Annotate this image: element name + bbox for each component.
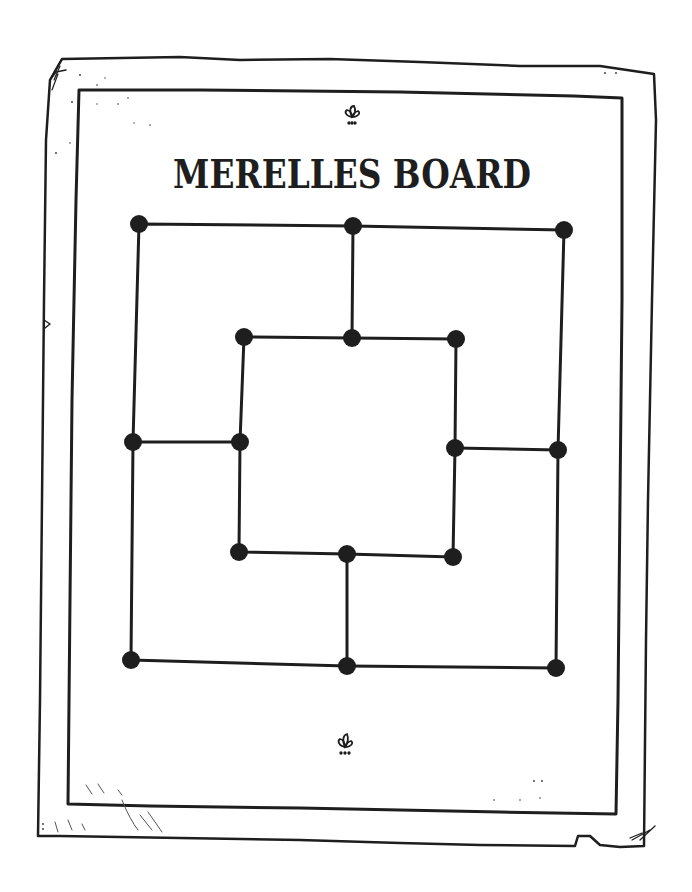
board-node[interactable]	[555, 221, 573, 239]
fleuron-icon	[346, 106, 360, 124]
board-node[interactable]	[447, 330, 465, 348]
board-node[interactable]	[124, 433, 142, 451]
board-node[interactable]	[235, 328, 253, 346]
board-node[interactable]	[444, 548, 462, 566]
board-node[interactable]	[446, 439, 464, 457]
board-node[interactable]	[547, 659, 565, 677]
merelles-board-page: MERELLES BOARD	[0, 0, 692, 892]
board-node[interactable]	[343, 329, 361, 347]
board-drawing	[0, 0, 692, 892]
board-node[interactable]	[344, 217, 362, 235]
board-node[interactable]	[130, 215, 148, 233]
board-node[interactable]	[549, 441, 567, 459]
board-node[interactable]	[231, 433, 249, 451]
page-title: MERELLES BOARD	[63, 150, 640, 197]
board-node[interactable]	[122, 651, 140, 669]
fleuron-icon	[339, 734, 353, 754]
board-node[interactable]	[338, 545, 356, 563]
board-node[interactable]	[338, 657, 356, 675]
board-lines	[131, 224, 564, 668]
inner-frame	[68, 90, 622, 814]
board-node[interactable]	[230, 543, 248, 561]
